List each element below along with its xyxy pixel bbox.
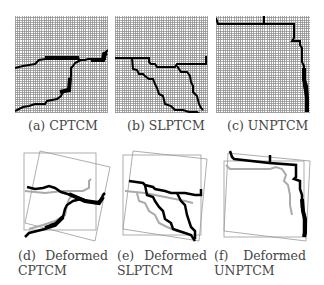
caption-f-word: Deformed — [243, 248, 306, 263]
caption-f: (f)Deformed UNPTCM — [214, 248, 306, 278]
panel-a-cptcm-grid — [15, 16, 108, 113]
caption-e-prefix: (e) — [117, 248, 134, 263]
caption-a: (a) CPTCM — [28, 118, 98, 133]
caption-d: (d)Deformed CPTCM — [18, 248, 108, 278]
crack-path-c — [216, 16, 310, 113]
caption-e-word: Deformed — [144, 248, 207, 263]
panel-e-deformed-slptcm — [115, 145, 215, 245]
caption-f-name: UNPTCM — [214, 263, 306, 278]
crack-path-b — [115, 16, 208, 113]
caption-e-name: SLPTCM — [117, 263, 207, 278]
caption-f-prefix: (f) — [214, 248, 228, 263]
caption-d-prefix: (d) — [18, 248, 36, 263]
deformed-mesh-f — [210, 145, 320, 245]
panel-c-unptcm-grid — [216, 16, 310, 113]
deformed-mesh-d — [15, 145, 115, 245]
caption-d-word: Deformed — [45, 248, 108, 263]
caption-d-name: CPTCM — [18, 263, 108, 278]
caption-c: (c) UNPTCM — [227, 118, 308, 133]
caption-b: (b) SLPTCM — [127, 118, 205, 133]
deformed-mesh-e — [115, 145, 215, 245]
panel-d-deformed-cptcm — [15, 145, 115, 245]
panel-f-deformed-unptcm — [210, 145, 320, 245]
panel-b-slptcm-grid — [115, 16, 208, 113]
caption-e: (e)Deformed SLPTCM — [117, 248, 207, 278]
crack-path-a — [15, 16, 108, 113]
